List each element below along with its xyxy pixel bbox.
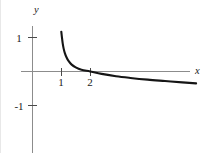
- plot-area: 1 -1 1 2 y x: [0, 0, 215, 153]
- figure-canvas: 1 -1 1 2 y x: [0, 0, 215, 153]
- left-edge-rule: [0, 0, 1, 153]
- y-axis-label: y: [33, 4, 39, 15]
- y-tick-label-1: 1: [16, 32, 22, 44]
- x-axis-label: x: [194, 65, 200, 76]
- y-tick-label-neg1: -1: [14, 100, 23, 112]
- function-curve: [61, 32, 196, 84]
- x-tick-label-1: 1: [58, 76, 64, 88]
- x-tick-label-2: 2: [87, 76, 93, 88]
